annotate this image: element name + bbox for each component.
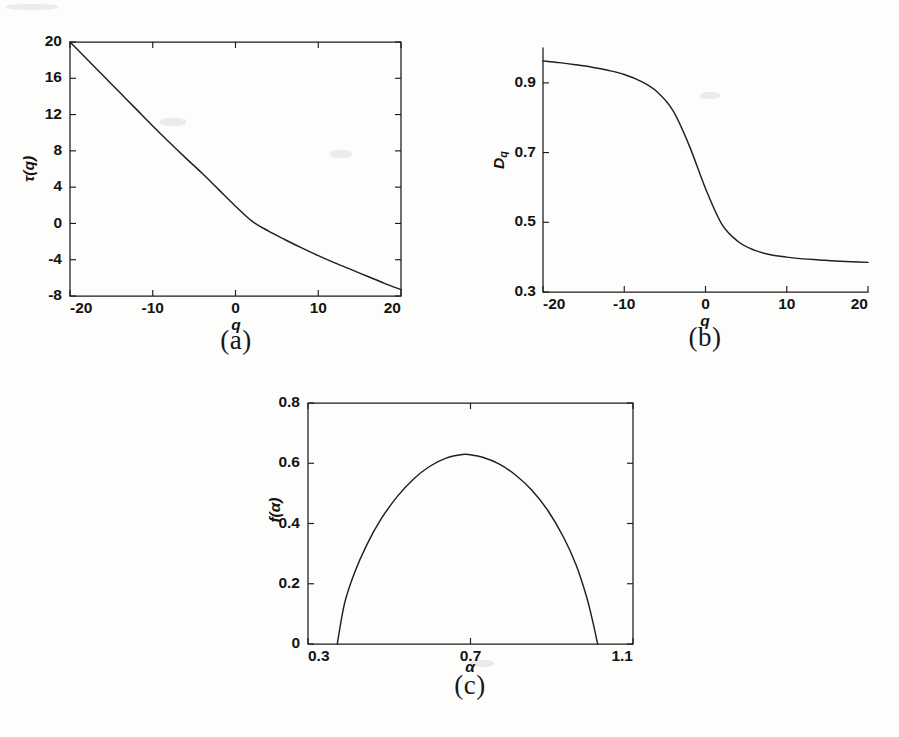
panel-c-axes — [308, 403, 633, 644]
y-axis-title: Dq — [490, 151, 509, 169]
y-tick-label: 0.8 — [278, 393, 300, 410]
panel-a-caption: (a) — [196, 325, 276, 356]
x-tick-label: -10 — [613, 295, 635, 312]
y-tick-label: 4 — [53, 177, 62, 194]
y-axis-title: τ(q) — [20, 156, 37, 182]
y-tick-label: 0 — [53, 214, 62, 231]
y-tick-group — [543, 83, 549, 292]
panel-a-axes — [70, 42, 401, 296]
panel-b-axes — [543, 48, 868, 292]
panel-b: -20-1001020 0.30.50.70.9 q Dq (b) — [440, 0, 899, 370]
y-tick-label: 0.5 — [514, 212, 536, 229]
y-tick-label: 12 — [45, 105, 62, 122]
axis-lines — [543, 48, 868, 292]
x-tick-label: 20 — [851, 295, 868, 312]
axis-box — [70, 42, 401, 296]
x-tick-label: -20 — [70, 299, 92, 316]
y-tick-label: 0.2 — [278, 574, 300, 591]
y-tick-group — [70, 42, 401, 296]
x-tick-group — [70, 42, 401, 296]
svg-text:Dq: Dq — [490, 151, 509, 169]
x-tick-group — [308, 403, 633, 644]
y-tick-label: 0.6 — [278, 453, 300, 470]
f-alpha-curve — [337, 454, 597, 644]
y-tick-label: 0.3 — [514, 282, 536, 299]
y-tick-label: -8 — [48, 286, 62, 303]
y-tick-label: -4 — [48, 250, 62, 267]
y-tick-label: 20 — [45, 32, 62, 49]
x-tick-label: 0.3 — [308, 647, 330, 664]
x-tick-label-group: -20-1001020 — [543, 295, 868, 312]
x-tick-label-group: -20-1001020 — [70, 299, 401, 316]
panel-b-caption: (b) — [665, 322, 745, 353]
x-tick-label: 0 — [231, 299, 240, 316]
y-axis-title: f(α) — [266, 497, 283, 522]
dq-curve — [543, 61, 868, 262]
y-tick-label: 0.7 — [514, 143, 536, 160]
panel-c: 0.30.71.1 00.20.40.60.8 α f(α) (c) — [180, 370, 700, 737]
panel-b-plot: -20-1001020 0.30.50.70.9 q Dq — [440, 0, 899, 370]
y-tick-label: 0.9 — [514, 73, 536, 90]
y-tick-label-group: 0.30.50.70.9 — [514, 73, 536, 299]
y-tick-label: 0 — [291, 634, 300, 651]
y-tick-label: 8 — [53, 141, 62, 158]
x-tick-label: 20 — [384, 299, 401, 316]
x-tick-label: 10 — [310, 299, 327, 316]
panel-c-caption: (c) — [430, 670, 510, 701]
figure-canvas: -20-1001020 -8-4048121620 q τ(q) (a) -20… — [0, 0, 899, 737]
y-tick-group — [308, 403, 633, 644]
tau-q-curve — [70, 42, 401, 290]
axis-box — [308, 403, 633, 644]
x-tick-label: 0 — [701, 295, 710, 312]
y-tick-label: 16 — [45, 68, 63, 85]
panel-a-plot: -20-1001020 -8-4048121620 q τ(q) — [0, 0, 440, 370]
x-tick-label: -10 — [142, 299, 164, 316]
x-tick-label: 1.1 — [611, 647, 633, 664]
panel-a: -20-1001020 -8-4048121620 q τ(q) (a) — [0, 0, 440, 370]
y-tick-label-group: -8-4048121620 — [45, 32, 63, 303]
x-tick-label: -20 — [543, 295, 565, 312]
x-tick-group — [543, 286, 868, 292]
x-tick-label: 10 — [778, 295, 795, 312]
